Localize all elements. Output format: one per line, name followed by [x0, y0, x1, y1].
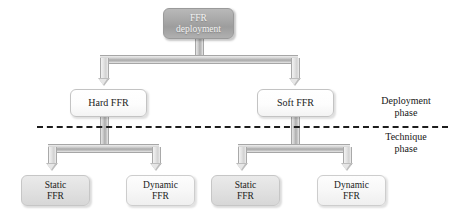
- node-ffr-deployment[interactable]: FFR deployment: [163, 8, 234, 39]
- connector-hard-ffr-stem: [100, 117, 109, 145]
- connector-level1-crossbar: [100, 55, 298, 64]
- node-ffr-deployment-line1: FFR: [190, 13, 207, 23]
- connector-level1-left-leg: [100, 58, 109, 80]
- node-ffr-deployment-label: FFR deployment: [176, 13, 221, 34]
- node-soft-ffr[interactable]: Soft FFR: [257, 89, 334, 117]
- connector-hard-subtree-crossbar: [48, 144, 159, 153]
- node-soft-dynamic-ffr-line2: FFR: [343, 191, 360, 201]
- phase-divider-dashed-line: [37, 126, 448, 128]
- arrow-down-icon-soft-dynamic-ffr: [341, 163, 353, 171]
- label-technique-phase-line2: phase: [395, 143, 418, 154]
- node-hard-ffr-label: Hard FFR: [88, 97, 128, 108]
- connector-soft-ffr-stem: [291, 117, 300, 145]
- node-ffr-deployment-line2: deployment: [176, 24, 221, 34]
- node-hard-ffr[interactable]: Hard FFR: [70, 89, 147, 117]
- node-hard-dynamic-ffr[interactable]: Dynamic FFR: [126, 175, 195, 206]
- node-hard-dynamic-ffr-line1: Dynamic: [143, 180, 178, 190]
- arrow-down-icon-hard-dynamic-ffr: [150, 163, 162, 171]
- label-deployment-phase-line1: Deployment: [381, 95, 430, 106]
- node-hard-static-ffr-label: Static FFR: [45, 180, 67, 201]
- node-soft-static-ffr-label: Static FFR: [235, 180, 257, 201]
- node-soft-static-ffr[interactable]: Static FFR: [211, 175, 280, 206]
- label-deployment-phase: Deployment phase: [363, 95, 449, 119]
- connector-soft-subtree-crossbar: [238, 144, 350, 153]
- label-deployment-phase-line2: phase: [395, 107, 418, 118]
- node-hard-dynamic-ffr-label: Dynamic FFR: [143, 180, 178, 201]
- ffr-deployment-diagram: FFR deployment Hard FFR Soft FFR Deploym…: [0, 0, 451, 216]
- node-soft-dynamic-ffr[interactable]: Dynamic FFR: [317, 175, 386, 206]
- arrow-down-icon-soft-ffr: [289, 78, 301, 86]
- arrow-down-icon-hard-ffr: [98, 78, 110, 86]
- connector-level1-right-leg: [291, 58, 300, 80]
- node-soft-ffr-label: Soft FFR: [277, 97, 314, 108]
- arrow-down-icon-hard-static-ffr: [46, 163, 58, 171]
- node-hard-static-ffr[interactable]: Static FFR: [21, 175, 90, 206]
- node-soft-static-ffr-line1: Static: [235, 180, 257, 190]
- node-hard-static-ffr-line1: Static: [45, 180, 67, 190]
- label-technique-phase-line1: Technique: [385, 131, 427, 142]
- node-hard-static-ffr-line2: FFR: [47, 191, 64, 201]
- node-hard-dynamic-ffr-line2: FFR: [152, 191, 169, 201]
- node-soft-static-ffr-line2: FFR: [237, 191, 254, 201]
- node-soft-dynamic-ffr-line1: Dynamic: [334, 180, 369, 190]
- arrow-down-icon-soft-static-ffr: [236, 163, 248, 171]
- label-technique-phase: Technique phase: [363, 131, 449, 155]
- node-soft-dynamic-ffr-label: Dynamic FFR: [334, 180, 369, 201]
